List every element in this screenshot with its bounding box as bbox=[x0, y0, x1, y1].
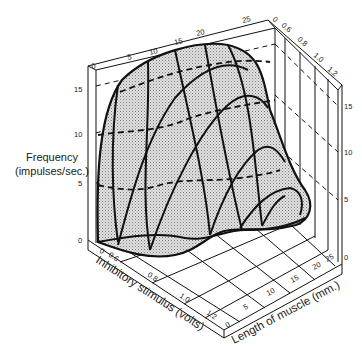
x-tick-base-1.2: 1.2 bbox=[205, 308, 219, 321]
z-tick-15-left: 15 bbox=[74, 85, 82, 94]
y-tick-top-5: 5 bbox=[126, 52, 132, 62]
y-tick-base-25: 25 bbox=[324, 252, 336, 264]
x-tick-base-1.0: 1.0 bbox=[178, 291, 192, 304]
z-tick-5-right: 5 bbox=[344, 195, 348, 204]
z-tick-0-left: 0 bbox=[78, 236, 82, 245]
surface-plot: 0 5 10 15 0 5 10 15 0 5 10 15 20 25 0 0.… bbox=[0, 0, 362, 350]
y-tick-top-25: 25 bbox=[241, 14, 251, 25]
y-tick-top-0: 0 bbox=[90, 61, 96, 71]
y-tick-top-15: 15 bbox=[173, 36, 183, 47]
z-tick-15-right: 15 bbox=[344, 102, 352, 111]
z-tick-10-right: 10 bbox=[344, 148, 352, 157]
y-tick-base-0: 0 bbox=[224, 320, 232, 330]
surface-fill bbox=[98, 44, 311, 257]
y-tick-base-15: 15 bbox=[289, 273, 301, 285]
surface bbox=[98, 44, 311, 257]
x-tick-top-1.0: 1.0 bbox=[312, 51, 326, 65]
y-axis-label: Length of muscle (mm.) bbox=[229, 278, 341, 345]
x-tick-top-1.2: 1.2 bbox=[326, 65, 340, 79]
x-tick-base-0.8: 0.8 bbox=[146, 270, 160, 283]
z-tick-5-left: 5 bbox=[78, 179, 82, 188]
y-tick-base-10: 10 bbox=[265, 286, 277, 298]
y-tick-base-20: 20 bbox=[311, 260, 323, 272]
y-tick-base-5: 5 bbox=[242, 302, 250, 312]
z-tick-10-left: 10 bbox=[74, 130, 82, 139]
z-tick-0-right: 0 bbox=[344, 253, 348, 262]
x-tick-top-0: 0 bbox=[271, 15, 280, 25]
